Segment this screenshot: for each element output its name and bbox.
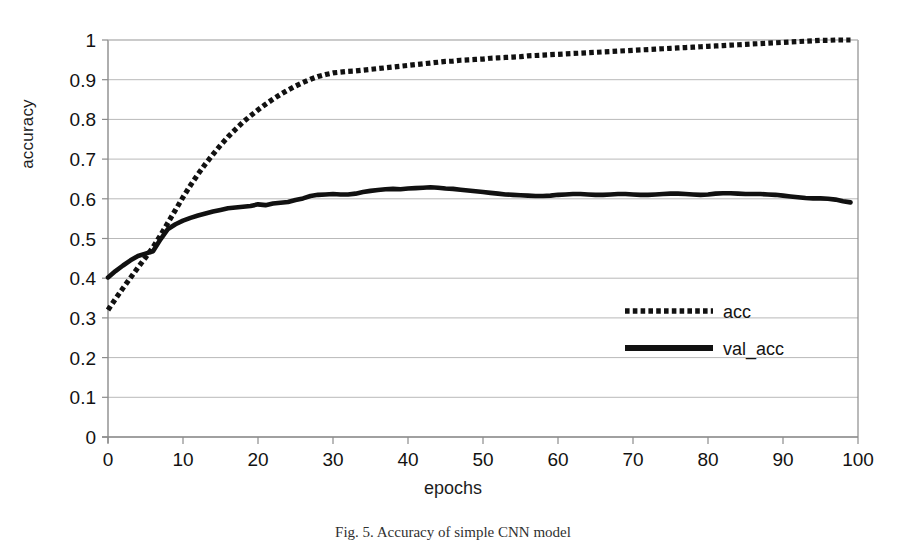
data-series-group	[108, 40, 851, 310]
x-tick-label: 30	[322, 449, 343, 470]
x-tick-label: 0	[103, 449, 114, 470]
y-tick-label: 0.8	[70, 109, 96, 130]
y-tick-label: 0.9	[70, 70, 96, 91]
y-tick-label: 1	[85, 30, 96, 51]
x-tick-label: 50	[472, 449, 493, 470]
x-tick-label: 70	[622, 449, 643, 470]
series-line-val_acc	[108, 187, 851, 277]
chart-svg: 00.10.20.30.40.50.60.70.80.9101020304050…	[0, 0, 906, 500]
y-tick-label: 0.4	[70, 268, 97, 289]
figure-root: 00.10.20.30.40.50.60.70.80.9101020304050…	[0, 0, 906, 543]
accuracy-line-chart: 00.10.20.30.40.50.60.70.80.9101020304050…	[0, 0, 906, 500]
y-tick-label: 0.2	[70, 348, 96, 369]
grid-lines	[108, 40, 858, 437]
legend-label-val_acc: val_acc	[723, 339, 784, 360]
x-tick-label: 10	[172, 449, 193, 470]
tick-labels: 00.10.20.30.40.50.60.70.80.9101020304050…	[70, 30, 874, 470]
y-tick-label: 0.6	[70, 189, 96, 210]
axes	[102, 40, 858, 444]
legend-label-acc: acc	[723, 302, 751, 322]
figure-caption: Fig. 5. Accuracy of simple CNN model	[0, 524, 906, 543]
x-axis-title: epochs	[0, 478, 906, 499]
x-tick-label: 20	[247, 449, 268, 470]
x-tick-label: 60	[547, 449, 568, 470]
x-tick-label: 100	[842, 449, 874, 470]
y-tick-label: 0.5	[70, 229, 96, 250]
y-tick-label: 0.1	[70, 387, 96, 408]
y-tick-label: 0.3	[70, 308, 96, 329]
legend: accval_acc	[625, 302, 784, 360]
series-line-acc	[108, 40, 851, 310]
y-axis-title: accuracy	[18, 64, 44, 204]
y-tick-label: 0.7	[70, 149, 96, 170]
x-tick-label: 40	[397, 449, 418, 470]
x-tick-label: 80	[697, 449, 718, 470]
y-tick-label: 0	[85, 427, 96, 448]
x-tick-label: 90	[772, 449, 793, 470]
